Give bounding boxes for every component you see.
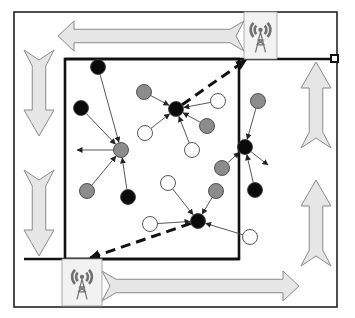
right-upper-arrow-shape [301, 62, 331, 148]
edge-g4-ch3 [228, 152, 240, 163]
diagram-svg [0, 0, 355, 318]
edge-b1-g_ch2 [100, 74, 119, 142]
track-end-marker [331, 55, 338, 62]
top-left-arrow-shape [58, 21, 244, 51]
node-white-w5 [143, 217, 158, 232]
node-gray-g6 [209, 184, 224, 199]
node-gray-g5 [80, 184, 95, 199]
edge-w5-ch4 [157, 221, 190, 223]
antenna-tip [80, 275, 84, 279]
left-upper-arrow-shape [24, 50, 54, 136]
bottom-sink-box [62, 259, 102, 306]
node-black-ch1 [169, 102, 184, 117]
edge-w1-ch1 [151, 114, 170, 129]
edge-w3-ch1 [179, 116, 189, 143]
node-white-w4 [161, 176, 176, 191]
node-white-w3 [185, 143, 200, 158]
node-black-b3 [121, 190, 136, 205]
sensor-field [24, 55, 338, 259]
top-sink-tower-icon [244, 12, 277, 59]
edge-g6-ch4 [202, 197, 212, 214]
node-gray-g2 [200, 119, 215, 134]
node-gray-g3 [251, 94, 266, 109]
antenna-tip [258, 28, 262, 32]
node-gray-g1 [137, 85, 152, 100]
sensor-nodes [74, 60, 266, 245]
node-white-w1 [138, 126, 153, 141]
edge-w4-ch4 [173, 189, 193, 215]
edge-w2-ch1 [184, 102, 211, 107]
node-white-w2 [211, 94, 226, 109]
node-gray-g4 [215, 161, 230, 176]
top-sink-box [244, 12, 277, 59]
bottom-right-arrow-shape [102, 271, 299, 301]
node-black-b1 [91, 60, 106, 75]
diagram-canvas [0, 0, 355, 318]
sink-towers [62, 12, 277, 306]
node-gray-g_ch2 [114, 143, 129, 158]
node-black-b2 [74, 101, 89, 116]
bottom-sink-tower-icon [62, 259, 102, 306]
node-white-w6 [243, 230, 258, 245]
right-lower-arrow-shape [301, 180, 331, 266]
upload-ch4 [90, 223, 191, 258]
edge-w6-ch4 [206, 223, 243, 234]
edge-g5-g_ch2 [92, 156, 116, 185]
node-black-b4 [248, 183, 263, 198]
edge-g3-ch3 [247, 108, 256, 139]
edge-b4-ch3 [247, 155, 253, 183]
outgoing-ch3 [251, 152, 268, 165]
edge-b3-g_ch2 [122, 158, 127, 190]
node-black-ch3 [238, 140, 253, 155]
node-black-ch4 [191, 214, 206, 229]
left-lower-arrow-shape [24, 170, 54, 256]
edge-g2-ch1 [183, 113, 200, 123]
edge-b2-g_ch2 [86, 113, 115, 144]
edge-g1-ch1 [151, 96, 169, 106]
